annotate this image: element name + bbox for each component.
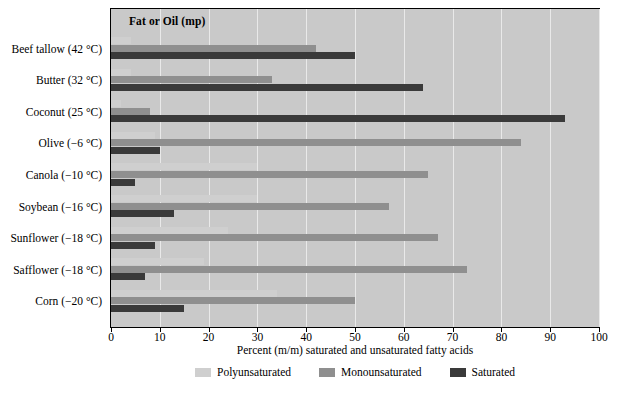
x-tick-label: 100 xyxy=(590,331,607,343)
x-axis-ticks: 0102030405060708090100 xyxy=(110,329,600,343)
x-tick-mark xyxy=(550,328,551,332)
chart-root: Beef tallow (42 °C)Butter (32 °C)Coconut… xyxy=(0,0,619,393)
bar-mono xyxy=(111,45,316,52)
legend-label: Monounsaturated xyxy=(341,366,421,378)
x-tick-label: 80 xyxy=(496,331,508,343)
bar-sat xyxy=(111,84,423,91)
bar-sat xyxy=(111,305,184,312)
x-tick-mark xyxy=(209,328,210,332)
category-label: Safflower (−18 °C) xyxy=(13,264,102,276)
bar-mono xyxy=(111,266,467,273)
bar-poly xyxy=(111,132,155,139)
x-tick-mark xyxy=(404,328,405,332)
legend-item: Monounsaturated xyxy=(319,366,421,378)
bar-sat xyxy=(111,179,135,186)
bar-poly xyxy=(111,163,257,170)
legend-swatch xyxy=(195,368,211,377)
x-tick-label: 10 xyxy=(154,331,166,343)
bar-mono xyxy=(111,76,272,83)
bar-poly xyxy=(111,195,257,202)
category-label: Coconut (25 °C) xyxy=(26,106,102,118)
bar-sat xyxy=(111,210,174,217)
x-tick-label: 30 xyxy=(252,331,264,343)
gridline xyxy=(355,9,356,327)
x-tick-label: 50 xyxy=(349,331,361,343)
x-tick-label: 60 xyxy=(398,331,410,343)
x-tick-label: 40 xyxy=(300,331,312,343)
category-label: Corn (−20 °C) xyxy=(35,295,102,307)
x-tick-mark xyxy=(355,328,356,332)
bar-mono xyxy=(111,108,150,115)
x-tick-mark xyxy=(501,328,502,332)
legend-swatch xyxy=(450,368,466,377)
plot-area: Fat or Oil (mp) xyxy=(110,8,600,328)
legend-item: Saturated xyxy=(450,366,515,378)
bar-sat xyxy=(111,147,160,154)
category-label: Soybean (−16 °C) xyxy=(19,201,102,213)
x-tick-label: 90 xyxy=(544,331,556,343)
legend-item: Polyunsaturated xyxy=(195,366,291,378)
bar-mono xyxy=(111,171,428,178)
category-label: Olive (−6 °C) xyxy=(39,137,102,149)
bar-poly xyxy=(111,290,277,297)
x-tick-mark xyxy=(599,328,600,332)
bar-poly xyxy=(111,100,121,107)
axis-header-label: Fat or Oil (mp) xyxy=(129,15,205,27)
bar-mono xyxy=(111,203,389,210)
gridline xyxy=(501,9,502,327)
x-tick-label: 70 xyxy=(447,331,459,343)
bar-sat xyxy=(111,273,145,280)
x-axis-title: Percent (m/m) saturated and unsaturated … xyxy=(110,344,600,356)
bar-sat xyxy=(111,242,155,249)
bar-poly xyxy=(111,37,131,44)
legend-label: Polyunsaturated xyxy=(217,366,291,378)
x-tick-mark xyxy=(306,328,307,332)
legend-label: Saturated xyxy=(472,366,515,378)
bar-mono xyxy=(111,234,438,241)
x-tick-mark xyxy=(257,328,258,332)
x-tick-label: 0 xyxy=(108,331,114,343)
x-tick-mark xyxy=(160,328,161,332)
chart-legend: PolyunsaturatedMonounsaturatedSaturated xyxy=(110,366,600,378)
category-axis-labels: Beef tallow (42 °C)Butter (32 °C)Coconut… xyxy=(0,8,106,328)
bar-poly xyxy=(111,69,131,76)
category-label: Sunflower (−18 °C) xyxy=(10,232,102,244)
category-label: Butter (32 °C) xyxy=(36,74,102,86)
bar-sat xyxy=(111,52,355,59)
bar-sat xyxy=(111,115,565,122)
bar-mono xyxy=(111,297,355,304)
legend-swatch xyxy=(319,368,335,377)
x-tick-label: 20 xyxy=(203,331,215,343)
bar-poly xyxy=(111,258,204,265)
gridline xyxy=(453,9,454,327)
gridline xyxy=(550,9,551,327)
x-tick-mark xyxy=(111,328,112,332)
bar-mono xyxy=(111,139,521,146)
bar-poly xyxy=(111,227,228,234)
x-tick-mark xyxy=(453,328,454,332)
category-label: Canola (−10 °C) xyxy=(26,169,102,181)
gridline xyxy=(599,9,600,327)
gridline xyxy=(404,9,405,327)
category-label: Beef tallow (42 °C) xyxy=(11,43,102,55)
